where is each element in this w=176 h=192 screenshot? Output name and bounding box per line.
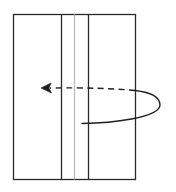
fold-diagram: [0, 0, 176, 192]
